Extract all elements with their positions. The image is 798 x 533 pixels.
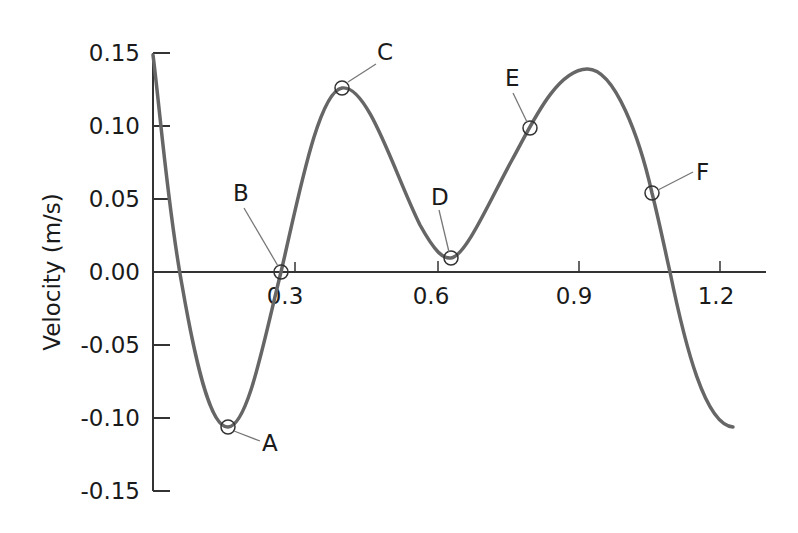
- y-axis-title: Velocity (m/s): [39, 193, 65, 351]
- x-tick-labels: 0.3 0.6 0.9 1.2: [267, 283, 735, 309]
- y-tick-label: 0.10: [89, 113, 140, 139]
- point-label-f: F: [696, 159, 709, 185]
- velocity-chart: 0.15 0.10 0.05 0.00 -0.05 -0.10 -0.15 Ve…: [0, 0, 798, 533]
- x-tick-label: 0.9: [556, 283, 593, 309]
- point-label-a: A: [262, 430, 278, 456]
- point-label-e: E: [505, 65, 520, 91]
- x-axis: [153, 261, 766, 272]
- point-label-c: C: [377, 39, 393, 65]
- point-label-b: B: [233, 180, 249, 206]
- velocity-curve: [153, 55, 733, 427]
- y-tick-labels: 0.15 0.10 0.05 0.00 -0.05 -0.10 -0.15: [80, 40, 140, 504]
- point-markers: [221, 81, 659, 434]
- y-tick-label: 0.15: [89, 40, 140, 66]
- x-tick-label: 0.6: [413, 283, 450, 309]
- y-tick-label: 0.05: [89, 186, 140, 212]
- point-label-d: D: [431, 184, 449, 210]
- x-tick-label: 1.2: [698, 283, 735, 309]
- leader-lines: [234, 64, 693, 441]
- y-tick-label: -0.10: [80, 405, 140, 431]
- y-tick-label: -0.05: [80, 332, 140, 358]
- y-tick-label: 0.00: [89, 259, 140, 285]
- point-labels: A B C D E F: [233, 39, 709, 456]
- y-tick-label: -0.15: [80, 478, 140, 504]
